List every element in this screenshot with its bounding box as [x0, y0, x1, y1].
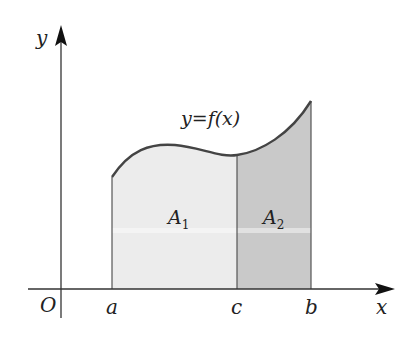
integral-diagram: y O a c b x y=f(x) A1 A2	[0, 0, 417, 348]
curve-label: y=f(x)	[180, 107, 240, 129]
x-axis-label: x	[376, 295, 387, 319]
point-a-label: a	[106, 295, 118, 319]
point-b-label: b	[305, 295, 318, 319]
point-c-label: c	[231, 295, 242, 319]
region-a2	[237, 101, 311, 289]
y-axis-label: y	[35, 26, 48, 50]
origin-label: O	[40, 293, 56, 317]
